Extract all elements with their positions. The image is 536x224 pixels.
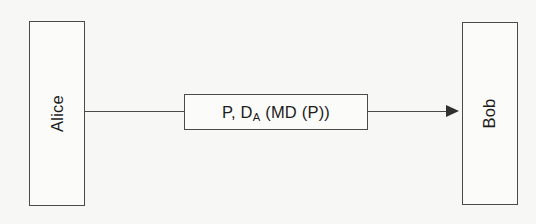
message-box: P, DA (MD (P)) [184, 94, 368, 130]
message-prefix: P, D [222, 103, 253, 121]
receiver-label: Bob [481, 99, 500, 129]
message-subscript: A [253, 111, 261, 123]
sender-label: Alice [47, 95, 66, 132]
sender-box-alice: Alice [29, 21, 85, 206]
arrowhead-icon [446, 105, 459, 117]
protocol-flow-diagram: Alice P, DA (MD (P)) Bob [0, 0, 536, 224]
message-suffix: (MD (P)) [260, 103, 330, 121]
message-label: P, DA (MD (P)) [222, 103, 330, 122]
connector-line-message-to-receiver [368, 111, 446, 112]
connector-line-sender-to-message [85, 111, 184, 112]
receiver-box-bob: Bob [462, 22, 518, 205]
